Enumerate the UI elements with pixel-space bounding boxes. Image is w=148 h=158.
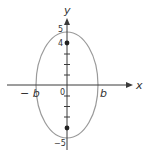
x-tick-label-b: b bbox=[100, 87, 107, 100]
origin-label: 0 bbox=[60, 88, 65, 97]
x-tick-label-neg-b: − b bbox=[20, 87, 40, 100]
y-tick-label-5: 5 bbox=[58, 25, 63, 34]
focus-point-bottom bbox=[65, 126, 70, 131]
y-axis-arrow-icon bbox=[64, 18, 70, 25]
x-axis-label: x bbox=[135, 79, 143, 92]
x-axis-arrow-icon bbox=[126, 82, 133, 88]
focus-point-top bbox=[65, 41, 70, 46]
y-axis-label: y bbox=[63, 4, 71, 17]
ellipse-diagram: y x 5 4 −5 0 − b b bbox=[0, 0, 148, 158]
y-tick-label-neg5: −5 bbox=[54, 139, 66, 148]
y-tick-label-4: 4 bbox=[58, 39, 63, 48]
